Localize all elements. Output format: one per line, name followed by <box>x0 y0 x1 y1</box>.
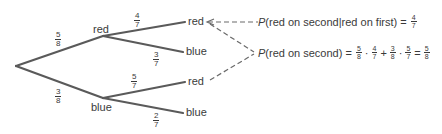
node-red-first: red <box>93 24 109 35</box>
branch-red-red <box>103 22 185 36</box>
prob-blue-red: 5 7 <box>131 73 137 90</box>
node-blue-blue: blue <box>186 107 207 118</box>
prob-red-blue: 3 7 <box>153 51 159 68</box>
prob-red-red: 4 7 <box>134 12 140 29</box>
total-probability-equation: P(red on second) = 58 · 47 + 38 · 57 = 5… <box>258 45 431 60</box>
dashed-lower <box>210 54 254 80</box>
node-blue-red: red <box>188 76 204 87</box>
branch-blue-red <box>103 82 185 98</box>
prob-blue-blue: 2 7 <box>153 112 159 129</box>
prob-root-blue: 3 8 <box>55 88 61 105</box>
node-blue-first: blue <box>91 102 112 113</box>
branch-blue-blue <box>103 98 183 113</box>
branch-red-blue <box>103 36 183 52</box>
dashed-upper <box>210 24 254 52</box>
node-red-blue: blue <box>186 46 207 57</box>
node-red-red: red <box>188 16 204 27</box>
conditional-probability-equation: P(red on second|red on first) = 4 7 <box>258 14 418 29</box>
prob-root-red: 5 8 <box>55 31 61 48</box>
